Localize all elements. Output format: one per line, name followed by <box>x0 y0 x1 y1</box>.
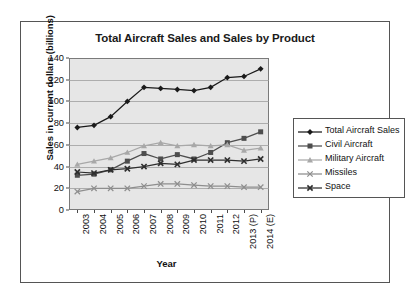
legend-label: Space <box>325 180 351 192</box>
data-point-diamond <box>208 84 214 90</box>
x-tick-mark <box>94 210 95 213</box>
x-tick-label: 2004 <box>98 214 108 234</box>
data-point-diamond <box>158 86 164 92</box>
data-point-diamond <box>224 75 230 81</box>
chart-legend: Total Aircraft SalesCivil AircraftMilita… <box>293 118 405 198</box>
x-tick-mark <box>111 210 112 213</box>
y-tick-label: 120 <box>48 75 64 85</box>
legend-label: Civil Aircraft <box>325 138 373 150</box>
x-tick-label: 2005 <box>115 214 125 234</box>
y-tick-label: 80 <box>54 118 64 128</box>
series-line <box>77 132 260 175</box>
legend-label: Total Aircraft Sales <box>325 124 400 136</box>
data-point-square <box>125 159 130 164</box>
x-tick-mark <box>144 210 145 213</box>
x-tick-label: 2006 <box>131 214 141 234</box>
x-tick-mark <box>211 210 212 213</box>
x-tick-mark <box>244 210 245 213</box>
data-point-triangle <box>158 140 164 145</box>
x-tick-label: 2008 <box>165 214 175 234</box>
data-point-square <box>208 150 213 155</box>
data-point-diamond <box>91 122 97 128</box>
x-tick-label: 2003 <box>81 214 91 234</box>
plot-series-svg <box>69 58 269 210</box>
data-point-diamond <box>74 125 80 131</box>
x-tick-label: 2011 <box>215 214 225 234</box>
y-tick-label: 40 <box>54 162 64 172</box>
series-line <box>77 159 260 173</box>
series-line <box>77 184 260 192</box>
x-axis-title: Year <box>59 258 274 269</box>
legend-marker-triangle-icon <box>297 152 323 164</box>
x-tick-label: 2007 <box>148 214 158 234</box>
series-0 <box>74 66 263 130</box>
data-point-diamond <box>174 87 180 93</box>
x-tick-label: 2013 (P) <box>248 214 258 249</box>
x-tick-mark <box>127 210 128 213</box>
x-tick-mark <box>177 210 178 213</box>
legend-item-civil-aircraft[interactable]: Civil Aircraft <box>297 137 400 151</box>
legend-item-total-aircraft-sales[interactable]: Total Aircraft Sales <box>297 123 400 137</box>
legend-item-military-aircraft[interactable]: Military Aircraft <box>297 151 400 165</box>
legend-item-missiles[interactable]: Missiles <box>297 165 400 179</box>
x-tick-mark <box>227 210 228 213</box>
series-line <box>77 143 260 165</box>
data-point-diamond <box>258 66 264 72</box>
chart-page-frame: Total Aircraft Sales and Sales by Produc… <box>20 21 390 283</box>
y-tick-label: 100 <box>48 96 64 106</box>
legend-marker-square-icon <box>297 138 323 150</box>
x-tick-mark <box>194 210 195 213</box>
data-point-diamond <box>307 129 313 135</box>
legend-marker-cross-square-icon <box>297 180 323 192</box>
data-point-square <box>308 144 313 149</box>
series-3 <box>75 181 264 194</box>
x-tick-mark <box>261 210 262 213</box>
series-1 <box>75 129 263 177</box>
y-tick-label: 20 <box>54 183 64 193</box>
data-point-diamond <box>191 88 197 94</box>
y-tick-label: 0 <box>59 205 64 215</box>
x-tick-mark <box>161 210 162 213</box>
legend-item-space[interactable]: Space <box>297 179 400 193</box>
data-point-square <box>258 129 263 134</box>
y-tick-label: 60 <box>54 140 64 150</box>
x-tick-label: 2009 <box>181 214 191 234</box>
plot-wrapper: 020406080100120140 200320042005200620072… <box>69 58 269 210</box>
data-point-square <box>175 152 180 157</box>
y-tick-label: 140 <box>48 53 64 63</box>
legend-label: Military Aircraft <box>325 152 384 164</box>
data-point-square <box>142 151 147 156</box>
series-2 <box>74 140 263 167</box>
x-tick-label: 2014 (E) <box>265 214 275 249</box>
legend-label: Missiles <box>325 166 357 178</box>
legend-marker-cross-icon <box>297 166 323 178</box>
x-tick-mark <box>77 210 78 213</box>
data-point-diamond <box>241 74 247 80</box>
x-tick-label: 2010 <box>198 214 208 234</box>
legend-marker-diamond-icon <box>297 124 323 136</box>
series-line <box>77 69 260 128</box>
data-point-square <box>242 136 247 141</box>
chart-title: Total Aircraft Sales and Sales by Produc… <box>21 32 389 44</box>
x-tick-label: 2012 <box>231 214 241 234</box>
